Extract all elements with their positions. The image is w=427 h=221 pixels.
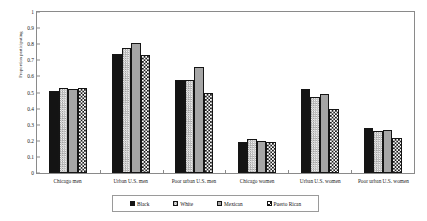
bar: [257, 141, 267, 173]
chart-legend: BlackWhiteMexicanPuerto Rican: [112, 195, 319, 212]
legend-swatch-icon: [267, 201, 272, 206]
x-tick-mark: [225, 170, 226, 173]
y-tick-label: 0.9: [27, 25, 37, 31]
legend-swatch-icon: [130, 201, 135, 206]
bar: [185, 80, 195, 173]
bar: [320, 94, 330, 173]
x-axis-category-label: Chicago men: [36, 178, 99, 184]
bar: [383, 130, 393, 173]
plot-area: 00.10.20.30.40.50.60.70.80.91: [36, 11, 415, 174]
y-tick-label: 0.7: [27, 57, 37, 63]
x-axis-category-label: Chicago women: [226, 178, 289, 184]
bar-group: [225, 12, 288, 173]
x-axis-category-label: Urban U.S. women: [289, 178, 352, 184]
x-tick-mark: [100, 170, 101, 173]
bar-chart-figure: Proportion participating 00.10.20.30.40.…: [0, 0, 427, 221]
bar: [131, 43, 141, 173]
y-tick-label: 0.3: [27, 122, 37, 128]
bar-groups: [37, 12, 414, 173]
bar: [122, 48, 132, 173]
legend-item[interactable]: White: [173, 201, 193, 207]
bar: [373, 131, 383, 173]
bar: [49, 91, 59, 173]
legend-swatch-icon: [173, 201, 178, 206]
bar: [247, 139, 257, 173]
bar-group: [100, 12, 163, 173]
x-tick-mark: [351, 170, 352, 173]
bar: [266, 142, 276, 173]
bar: [78, 88, 88, 173]
bar: [310, 97, 320, 173]
bar: [392, 138, 402, 173]
y-tick-label: 0.1: [27, 154, 37, 160]
bar-group: [351, 12, 414, 173]
y-tick-label: 0.6: [27, 73, 37, 79]
bar-group: [163, 12, 226, 173]
legend-item[interactable]: Puerto Rican: [267, 201, 302, 207]
bar: [301, 89, 311, 173]
bar-group: [288, 12, 351, 173]
legend-item-label: White: [180, 201, 193, 207]
legend-item-label: Mexican: [224, 201, 243, 207]
bar: [175, 80, 185, 173]
bar: [112, 54, 122, 173]
bar: [364, 128, 374, 173]
x-tick-mark: [163, 170, 164, 173]
legend-item[interactable]: Black: [130, 201, 149, 207]
x-tick-mark: [288, 170, 289, 173]
legend-item-label: Puerto Rican: [274, 201, 302, 207]
x-axis-category-label: Poor urban U.S. men: [162, 178, 225, 184]
y-tick-label: 0.4: [27, 106, 37, 112]
y-tick-label: 0.5: [27, 90, 37, 96]
legend-swatch-icon: [217, 201, 222, 206]
bar: [141, 55, 151, 173]
x-axis-category-label: Poor urban U.S. women: [352, 178, 415, 184]
bar: [204, 93, 214, 174]
x-axis-labels: Chicago menUrban U.S. menPoor urban U.S.…: [36, 178, 415, 184]
y-axis-title: Proportion participating: [18, 0, 23, 115]
bar: [68, 89, 78, 173]
bar: [59, 88, 69, 173]
bar: [329, 109, 339, 173]
bar: [238, 142, 248, 173]
plot-inner: 00.10.20.30.40.50.60.70.80.91: [37, 12, 414, 173]
y-tick-label: 0.8: [27, 41, 37, 47]
x-axis-category-label: Urban U.S. men: [99, 178, 162, 184]
y-tick-label: 0.2: [27, 138, 37, 144]
bar: [194, 67, 204, 173]
legend-item-label: Black: [137, 201, 149, 207]
legend-item[interactable]: Mexican: [217, 201, 243, 207]
bar-group: [37, 12, 100, 173]
